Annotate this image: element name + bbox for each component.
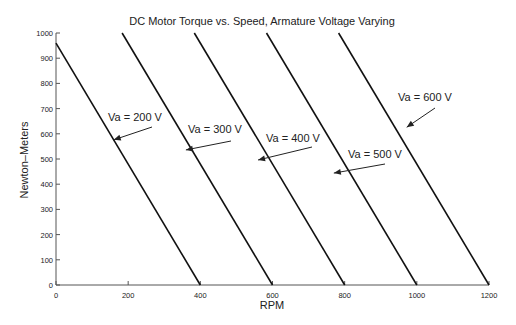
x-axis-label: RPM: [260, 299, 284, 311]
y-tick-label: 500: [40, 155, 53, 164]
chart-canvas: DC Motor Torque vs. Speed, Armature Volt…: [0, 0, 516, 325]
y-tick-label: 700: [40, 105, 53, 114]
x-tick-label: 400: [194, 291, 207, 300]
torque-speed-chart: DC Motor Torque vs. Speed, Armature Volt…: [0, 0, 516, 325]
arrowhead-icon: [407, 121, 414, 127]
arrowhead-icon: [334, 169, 341, 175]
series-line: [56, 43, 200, 285]
x-tick-label: 0: [54, 291, 58, 300]
y-tick-label: 1000: [36, 29, 53, 38]
y-tick-label: 300: [40, 205, 53, 214]
series-line: [194, 33, 344, 285]
x-tick-label: 800: [338, 291, 351, 300]
axes: 0100200300400500600700800900100002004006…: [36, 29, 497, 300]
annotation-label: Va = 600 V: [398, 91, 453, 103]
x-tick-label: 1200: [481, 291, 498, 300]
y-tick-label: 100: [40, 256, 53, 265]
annotation-label: Va = 300 V: [188, 123, 243, 135]
y-tick-label: 0: [49, 281, 53, 290]
arrowhead-icon: [258, 155, 266, 161]
x-tick-label: 200: [122, 291, 135, 300]
y-tick-label: 400: [40, 180, 53, 189]
chart-title: DC Motor Torque vs. Speed, Armature Volt…: [129, 15, 395, 27]
annotation-label: Va = 500 V: [348, 148, 403, 160]
x-tick-label: 1000: [408, 291, 425, 300]
series-line: [122, 33, 272, 285]
y-tick-label: 600: [40, 130, 53, 139]
annotation-label: Va = 200 V: [108, 111, 163, 123]
y-axis-label: Newton–Meters: [18, 121, 30, 199]
y-tick-label: 900: [40, 54, 53, 63]
series-lines: [56, 33, 489, 285]
annotation-arrow: [334, 164, 385, 173]
y-tick-label: 200: [40, 231, 53, 240]
arrowhead-icon: [114, 135, 122, 141]
y-tick-label: 800: [40, 79, 53, 88]
annotations: Va = 200 VVa = 300 VVa = 400 VVa = 500 V…: [108, 91, 453, 175]
annotation-label: Va = 400 V: [266, 132, 321, 144]
